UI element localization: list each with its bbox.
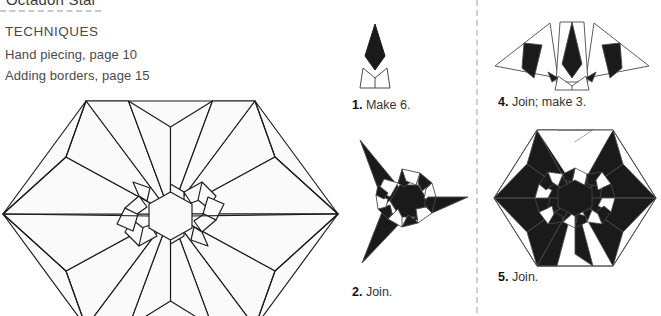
main-block-diagram	[0, 96, 343, 316]
header-divider	[0, 10, 101, 12]
step-4-caption: 4. Join; make 3.	[498, 95, 586, 109]
step-5-text: Join.	[512, 270, 538, 284]
step-2-caption: 2. Join.	[352, 285, 392, 299]
step-5-unit	[492, 128, 658, 268]
techniques-heading: TECHNIQUES	[5, 24, 99, 39]
page-title-cutoff: Octagon Star	[6, 0, 97, 5]
step-4-number: 4.	[498, 95, 508, 109]
step-1-unit	[345, 22, 415, 92]
techniques-item-hand-piecing: Hand piecing, page 10	[5, 47, 137, 62]
step-1-figure	[345, 22, 415, 92]
step-4-figure	[492, 20, 652, 92]
step-2-unit	[340, 135, 475, 275]
techniques-item-adding-borders: Adding borders, page 15	[5, 68, 150, 83]
step-1-number: 1.	[352, 98, 362, 112]
step-2-number: 2.	[352, 285, 362, 299]
step-5-figure	[492, 128, 658, 268]
step-1-text: Make 6.	[366, 98, 410, 112]
column-divider	[476, 0, 478, 313]
main-star-linework	[0, 96, 343, 316]
step-5-number: 5.	[498, 270, 508, 284]
step-2-text: Join.	[366, 285, 392, 299]
step-1-caption: 1. Make 6.	[352, 98, 410, 112]
step-4-text: Join; make 3.	[512, 95, 586, 109]
step-2-figure	[340, 135, 475, 275]
step-5-caption: 5. Join.	[498, 270, 538, 284]
step-4-unit	[492, 20, 652, 92]
